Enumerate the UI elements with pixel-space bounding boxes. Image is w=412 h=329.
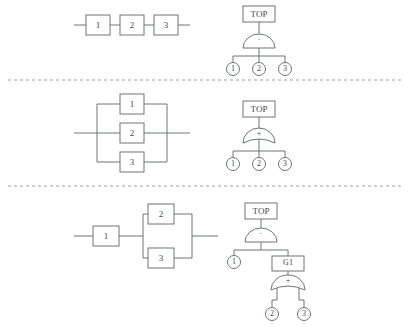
ft3-subgate-event-2-label: 2 xyxy=(270,309,274,318)
rbd2-block-3-label: 3 xyxy=(130,157,135,167)
ft3-event-1-label: 1 xyxy=(232,257,236,266)
ft1-top-label: TOP xyxy=(251,9,268,19)
ft2-event-3-label: 3 xyxy=(283,159,287,168)
rbd1-block-3-label: 3 xyxy=(164,20,169,30)
rbd1-block-1-label: 1 xyxy=(96,20,101,30)
row-2-parallel-block-diagram: 1 2 3 xyxy=(74,94,190,172)
ft1-event-3-label: 3 xyxy=(283,64,287,73)
ft2-top-label: TOP xyxy=(251,104,268,114)
ft1-and-gate-symbol: · xyxy=(258,34,261,44)
row-1-fault-tree: TOP · 1 2 3 xyxy=(227,6,292,76)
ft3-and-gate-symbol: · xyxy=(260,228,263,238)
ft3-subgate-event-3-label: 3 xyxy=(302,309,306,318)
ft2-event-2-label: 2 xyxy=(257,159,261,168)
ft1-event-1-label: 1 xyxy=(231,64,235,73)
rbd2-block-1-label: 1 xyxy=(130,99,135,109)
ft3-or-gate-symbol: + xyxy=(286,276,291,285)
ft2-or-gate-symbol: + xyxy=(257,129,262,138)
ft2-event-1-label: 1 xyxy=(231,159,235,168)
rbd1-block-2-label: 2 xyxy=(130,20,135,30)
rbd2-block-2-label: 2 xyxy=(130,128,135,138)
ft1-event-2-label: 2 xyxy=(257,64,261,73)
ft3-subgate-label: G1 xyxy=(283,258,293,267)
rbd3-block-1-label: 1 xyxy=(104,231,109,241)
row-1-series-block-diagram: 1 2 3 xyxy=(74,15,190,35)
ft3-top-label: TOP xyxy=(253,206,270,216)
rbd3-block-2-label: 2 xyxy=(159,209,164,219)
row-3-fault-tree: TOP · 1 G1 + 2 3 xyxy=(228,203,311,321)
row-2-fault-tree: TOP + 1 2 3 xyxy=(227,101,292,171)
row-3-series-parallel-block-diagram: 1 2 3 xyxy=(74,204,218,268)
ft3-subgate-stem-2 xyxy=(272,288,277,308)
ft3-subgate-stem-3 xyxy=(299,288,304,308)
rbd3-block-3-label: 3 xyxy=(159,253,164,263)
reliability-block-diagram-fault-tree-figure: 1 2 3 TOP · 1 2 3 xyxy=(0,0,412,329)
